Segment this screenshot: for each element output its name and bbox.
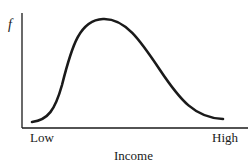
- y-axis-label: f: [8, 18, 12, 32]
- income-density-curve: [32, 19, 223, 122]
- x-tick-low: Low: [30, 131, 54, 144]
- x-tick-high: High: [212, 131, 238, 144]
- x-axis-label: Income: [114, 149, 153, 162]
